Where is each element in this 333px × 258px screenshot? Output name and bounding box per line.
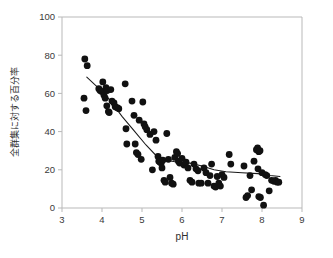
data-point bbox=[260, 202, 267, 209]
data-point bbox=[189, 179, 196, 186]
y-tick-label: 60 bbox=[44, 88, 55, 99]
data-point bbox=[241, 163, 248, 170]
data-point bbox=[159, 164, 166, 171]
y-tick-label: 0 bbox=[50, 202, 55, 213]
scatter-plot: 020406080100 3456789 pH 全群集に対する百分率 bbox=[0, 0, 333, 258]
x-axis-title: pH bbox=[176, 231, 189, 242]
data-point bbox=[99, 79, 106, 86]
data-point bbox=[221, 174, 228, 181]
data-point bbox=[217, 183, 224, 190]
chart-figure: 020406080100 3456789 pH 全群集に対する百分率 bbox=[0, 0, 333, 258]
x-tick-label: 9 bbox=[299, 214, 304, 225]
data-point bbox=[153, 137, 160, 144]
data-point bbox=[244, 192, 251, 199]
data-point bbox=[167, 174, 174, 181]
data-point bbox=[266, 187, 273, 194]
data-point bbox=[115, 105, 122, 112]
data-point bbox=[81, 56, 88, 63]
data-point bbox=[248, 186, 255, 193]
data-point bbox=[227, 161, 234, 168]
data-point bbox=[102, 95, 109, 102]
x-tick-label: 4 bbox=[99, 214, 104, 225]
data-point bbox=[138, 156, 145, 163]
y-tick-label: 80 bbox=[44, 50, 55, 61]
data-point bbox=[149, 166, 156, 173]
y-tick-label: 40 bbox=[44, 126, 55, 137]
data-point bbox=[83, 107, 90, 114]
data-point bbox=[132, 141, 139, 148]
data-point bbox=[247, 172, 254, 179]
data-point bbox=[226, 151, 233, 158]
data-point bbox=[163, 130, 170, 137]
data-point bbox=[251, 158, 258, 165]
x-tick-label: 8 bbox=[259, 214, 264, 225]
data-point bbox=[84, 62, 91, 69]
data-point bbox=[123, 141, 130, 148]
data-point bbox=[257, 147, 264, 154]
data-point bbox=[170, 181, 177, 188]
data-point bbox=[106, 109, 113, 116]
data-point bbox=[107, 86, 114, 93]
data-point bbox=[257, 194, 264, 201]
data-point bbox=[275, 179, 282, 186]
data-point bbox=[205, 180, 212, 187]
data-point bbox=[185, 164, 192, 171]
data-point bbox=[263, 172, 270, 179]
y-tick-label: 100 bbox=[39, 11, 55, 22]
y-axis-title: 全群集に対する百分率 bbox=[9, 67, 20, 157]
data-point bbox=[129, 98, 136, 105]
data-point bbox=[195, 167, 202, 174]
data-point bbox=[165, 156, 172, 163]
x-tick-label: 5 bbox=[139, 214, 144, 225]
x-tick-label: 6 bbox=[179, 214, 184, 225]
data-point bbox=[162, 179, 169, 186]
data-point bbox=[81, 95, 88, 102]
y-tick-label: 20 bbox=[44, 164, 55, 175]
data-point bbox=[208, 161, 215, 168]
x-tick-label: 7 bbox=[219, 214, 224, 225]
data-point bbox=[131, 112, 138, 119]
data-point bbox=[207, 172, 214, 179]
data-point bbox=[139, 99, 146, 106]
data-point bbox=[122, 80, 129, 87]
data-point bbox=[198, 180, 205, 187]
x-tick-label: 3 bbox=[59, 214, 64, 225]
data-point bbox=[103, 102, 110, 109]
data-point bbox=[123, 125, 130, 132]
data-point bbox=[151, 128, 158, 135]
